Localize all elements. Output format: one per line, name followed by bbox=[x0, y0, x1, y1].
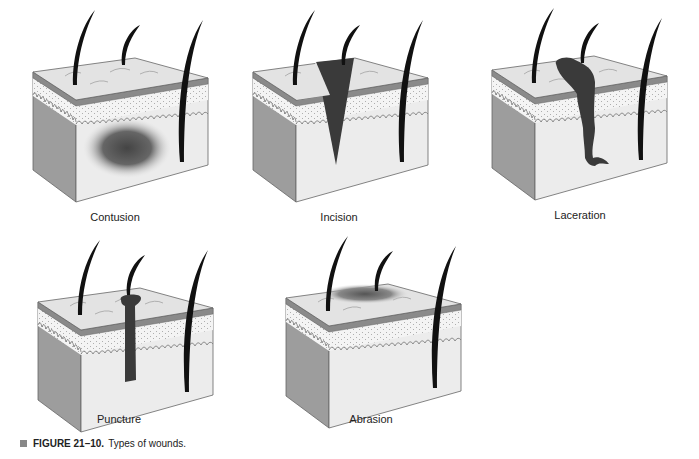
label-contusion: Contusion bbox=[90, 211, 140, 223]
label-puncture: Puncture bbox=[97, 413, 141, 425]
label-incision: Incision bbox=[320, 211, 357, 223]
caption-bullet-icon bbox=[20, 440, 27, 447]
panel-contusion bbox=[33, 10, 208, 202]
figure-title: Types of wounds. bbox=[108, 438, 186, 449]
panel-abrasion bbox=[286, 236, 461, 428]
panel-laceration bbox=[492, 8, 667, 200]
bruise bbox=[83, 118, 171, 178]
panel-incision bbox=[253, 10, 428, 202]
abrasion-scrape bbox=[321, 284, 409, 304]
label-laceration: Laceration bbox=[554, 209, 605, 221]
panel-puncture bbox=[38, 240, 213, 432]
label-abrasion: Abrasion bbox=[349, 413, 392, 425]
figure-caption: FIGURE 21–10.Types of wounds. bbox=[20, 438, 186, 449]
wound-types-diagram bbox=[0, 0, 699, 459]
figure-number: FIGURE 21–10. bbox=[33, 438, 104, 449]
